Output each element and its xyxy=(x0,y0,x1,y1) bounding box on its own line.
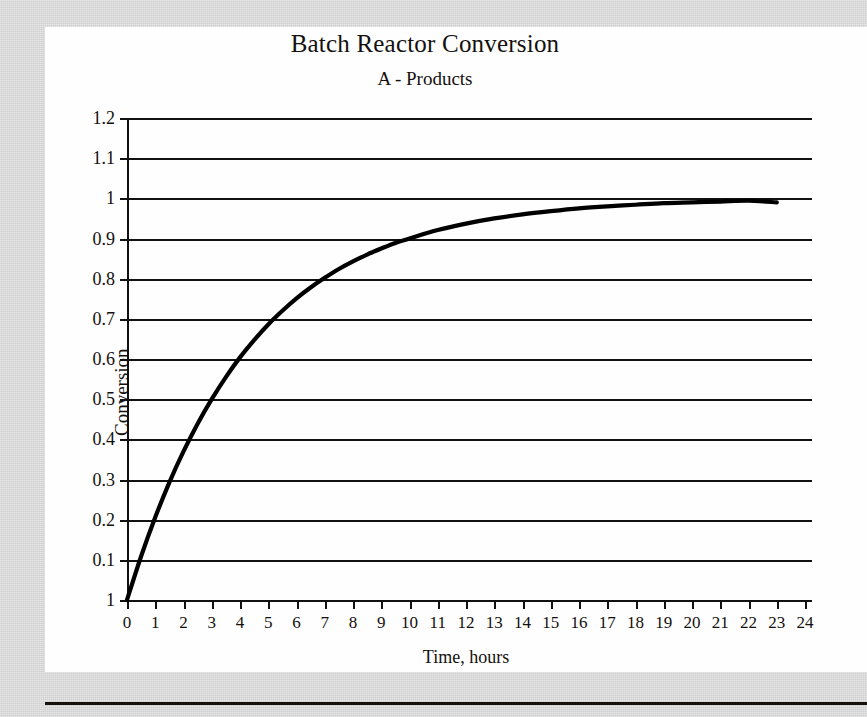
y-tick-mark xyxy=(120,118,127,120)
footer-rule xyxy=(45,702,867,705)
x-tick-mark xyxy=(805,600,807,609)
y-tick-label: 0.9 xyxy=(93,228,116,249)
x-axis-line xyxy=(127,600,805,602)
x-tick-label: 5 xyxy=(264,613,273,633)
x-tick-label: 23 xyxy=(768,613,785,633)
y-tick-mark xyxy=(120,439,127,441)
x-tick-label: 18 xyxy=(627,613,644,633)
x-tick-label: 22 xyxy=(740,613,757,633)
y-tick-label: 0.8 xyxy=(93,268,116,289)
y-tick-mark xyxy=(120,198,127,200)
x-tick-label: 10 xyxy=(401,613,418,633)
x-tick-label: 4 xyxy=(236,613,245,633)
x-tick-label: 1 xyxy=(151,613,160,633)
x-tick-label: 17 xyxy=(599,613,616,633)
chart-title: Batch Reactor Conversion xyxy=(45,30,805,58)
x-tick-label: 20 xyxy=(684,613,701,633)
y-tick-mark xyxy=(120,520,127,522)
x-tick-label: 13 xyxy=(486,613,503,633)
y-tick-mark xyxy=(120,239,127,241)
x-tick-label: 2 xyxy=(179,613,188,633)
conversion-curve xyxy=(127,118,812,600)
y-tick-label: 0.1 xyxy=(93,549,116,570)
x-tick-label: 9 xyxy=(377,613,386,633)
y-tick-label: 1 xyxy=(106,188,115,209)
y-tick-label: 1.2 xyxy=(93,108,116,129)
plot-area: 1.21.110.90.80.70.60.50.40.30.20.11 0123… xyxy=(127,118,812,600)
x-tick-label: 14 xyxy=(514,613,531,633)
y-tick-mark xyxy=(120,319,127,321)
x-tick-label: 15 xyxy=(542,613,559,633)
y-tick-mark xyxy=(120,480,127,482)
y-tick-label: 0.3 xyxy=(93,469,116,490)
x-tick-label: 16 xyxy=(571,613,588,633)
y-tick-label: 1.1 xyxy=(93,148,116,169)
x-tick-label: 21 xyxy=(712,613,729,633)
x-tick-label: 11 xyxy=(430,613,446,633)
y-tick-mark xyxy=(120,158,127,160)
x-tick-label: 3 xyxy=(208,613,217,633)
y-axis-title: Conversion xyxy=(111,348,133,436)
y-tick-mark xyxy=(120,279,127,281)
x-axis-title: Time, hours xyxy=(127,647,805,668)
y-tick-label: 0.7 xyxy=(93,308,116,329)
x-tick-label: 8 xyxy=(349,613,358,633)
y-tick-label: 0.2 xyxy=(93,509,116,530)
x-tick-label: 12 xyxy=(458,613,475,633)
y-tick-label: 1 xyxy=(106,590,115,611)
x-tick-label: 0 xyxy=(123,613,132,633)
x-tick-label: 24 xyxy=(797,613,814,633)
figure-canvas: Batch Reactor Conversion A - Products 1.… xyxy=(45,27,867,672)
x-tick-label: 19 xyxy=(655,613,672,633)
x-tick-label: 7 xyxy=(321,613,330,633)
x-tick-label: 6 xyxy=(292,613,301,633)
chart-subtitle: A - Products xyxy=(45,68,805,90)
y-tick-mark xyxy=(120,560,127,562)
